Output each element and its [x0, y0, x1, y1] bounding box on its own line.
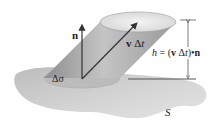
label-height: h = (v Δt)•n — [152, 47, 200, 59]
label-height-dot: )• — [188, 47, 195, 58]
label-height-n: n — [195, 47, 201, 58]
label-velocity-delta: Δ — [132, 37, 142, 49]
cylinder-top — [100, 12, 176, 32]
label-area: Δσ — [52, 74, 64, 84]
label-velocity-t: t — [141, 37, 144, 49]
label-normal: n — [72, 30, 78, 41]
label-surface: S — [165, 107, 171, 118]
label-velocity: v Δt — [126, 38, 144, 49]
flux-diagram — [0, 0, 223, 128]
label-height-dt: Δ — [176, 47, 185, 58]
label-height-eq: = ( — [157, 47, 171, 58]
